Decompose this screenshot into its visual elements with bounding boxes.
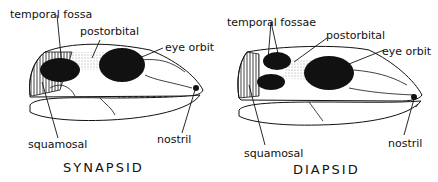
diapsid-title: DIAPSID — [293, 162, 360, 177]
eye-orbit-label: eye orbit — [382, 46, 431, 57]
nostril-label: nostril — [388, 138, 422, 149]
synapsid-panel: temporal fossa postorbital eye orbit squ… — [0, 0, 219, 182]
synapsid-title: SYNAPSID — [63, 160, 144, 175]
temporal-fossa-label: temporal fossa — [10, 9, 92, 20]
squamosal-label: squamosal — [28, 139, 87, 150]
nostril-label: nostril — [157, 134, 191, 145]
squamosal-label: squamosal — [244, 148, 303, 159]
temporal-fossae-label: temporal fossae — [227, 17, 316, 28]
postorbital-label: postorbital — [326, 30, 385, 41]
postorbital-label: postorbital — [80, 26, 139, 37]
eye-orbit-label: eye orbit — [165, 42, 214, 53]
diapsid-panel: temporal fossae postorbital eye orbit sq… — [219, 0, 438, 182]
